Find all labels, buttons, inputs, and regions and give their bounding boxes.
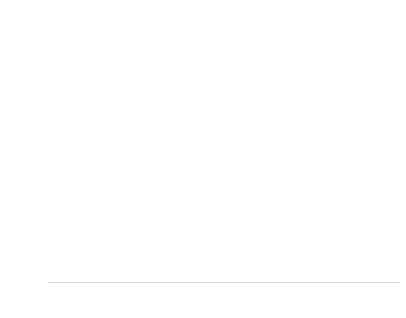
y-axis <box>0 0 44 318</box>
stacked-bar-chart <box>0 0 406 318</box>
plot-area <box>48 24 400 282</box>
x-axis-baseline <box>48 282 400 283</box>
